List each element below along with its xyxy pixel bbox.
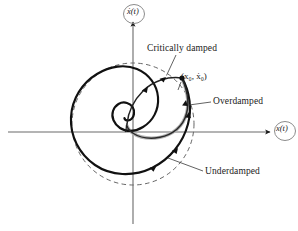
y-axis-label: ẋ(t): [127, 6, 139, 16]
leader-critically-damped: [167, 55, 177, 76]
phase-plane-plot: [0, 0, 298, 231]
leader-underdamped: [168, 158, 203, 171]
phase-plane-figure: Critically damped Overdamped Underdamped…: [0, 0, 298, 231]
x-axis-label: x(t): [276, 123, 288, 133]
label-overdamped: Overdamped: [213, 96, 263, 106]
label-critically-damped: Critically damped: [147, 43, 217, 53]
label-initial-condition: (x₀, ẋ₀): [181, 71, 207, 81]
leader-overdamped: [189, 102, 211, 105]
label-underdamped: Underdamped: [205, 166, 260, 176]
